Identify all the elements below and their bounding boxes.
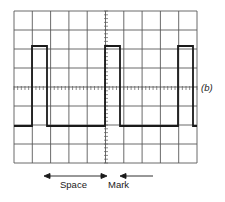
space-label: Space bbox=[60, 179, 87, 190]
panel-label: (b) bbox=[201, 82, 213, 93]
mark-arrow bbox=[120, 174, 153, 179]
mark-label: Mark bbox=[108, 179, 129, 190]
space-arrow bbox=[44, 174, 107, 179]
square-wave-trace bbox=[14, 46, 197, 126]
oscilloscope-display bbox=[0, 0, 225, 202]
